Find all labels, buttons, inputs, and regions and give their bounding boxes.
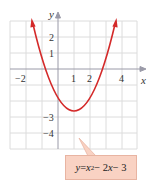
right-arrow-icon (112, 18, 117, 28)
tick-x-neg2: −2 (15, 73, 26, 84)
axes (10, 12, 146, 149)
y-axis-arrow-icon (56, 12, 61, 18)
grid (10, 21, 137, 149)
y-axis-label: y (48, 8, 54, 20)
tick-x-2: 2 (87, 73, 92, 84)
annotation-pointer (79, 138, 96, 156)
tick-y-1: 1 (49, 48, 54, 59)
equation-label: y = x2 − 2x − 3 (65, 155, 137, 180)
left-arrow-icon (30, 18, 35, 28)
tick-y-neg4: −4 (43, 128, 54, 139)
eq-term-2: − 2 (94, 162, 108, 173)
tick-y-neg3: −3 (43, 112, 54, 123)
tick-y-2: 2 (49, 32, 54, 43)
eq-term-3: − 3 (113, 162, 127, 173)
tick-x-4: 4 (119, 73, 124, 84)
tick-x-1: 1 (71, 73, 76, 84)
x-axis-label: x (140, 74, 146, 86)
x-axis-arrow-icon (140, 67, 146, 72)
